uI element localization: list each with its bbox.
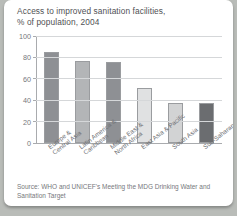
y-tick-100 <box>33 36 36 37</box>
y-tick-60 <box>33 78 36 79</box>
chart-title: Access to improved sanitation facilities… <box>17 6 217 28</box>
y-tick-40 <box>33 100 36 101</box>
y-tick-label-40: 40 <box>23 96 31 105</box>
y-tick-label-80: 80 <box>23 53 31 62</box>
y-tick-label-100: 100 <box>19 32 31 41</box>
source-line-2: Sanitation Target <box>17 192 222 201</box>
source-note: Source: WHO and UNICEF's Meeting the MDG… <box>17 183 222 200</box>
chart-card: Access to improved sanitation facilities… <box>4 0 233 206</box>
y-tick-80 <box>33 57 36 58</box>
y-tick-label-0: 0 <box>27 139 31 148</box>
plot-area: 020406080100 Europe &Central AsiaLatin A… <box>36 36 222 143</box>
chart-card-inner: Access to improved sanitation facilities… <box>4 0 233 206</box>
gridline-60 <box>36 78 222 79</box>
gridline-80 <box>36 57 222 58</box>
gridline-100 <box>36 36 222 37</box>
chart-title-line-1: Access to improved sanitation facilities… <box>17 6 165 16</box>
gridline-40 <box>36 100 222 101</box>
chart-title-line-2: % of population, 2004 <box>17 17 217 28</box>
source-line-1: Source: WHO and UNICEF's Meeting the MDG… <box>17 183 210 190</box>
y-tick-label-20: 20 <box>23 117 31 126</box>
gridline-20 <box>36 121 222 122</box>
y-tick-label-60: 60 <box>23 74 31 83</box>
screenshot-root: Access to improved sanitation facilities… <box>0 0 237 216</box>
bar <box>44 52 59 143</box>
y-tick-20 <box>33 121 36 122</box>
y-tick-0 <box>33 143 36 144</box>
